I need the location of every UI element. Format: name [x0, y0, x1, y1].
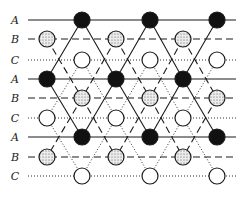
atom-filled	[142, 129, 158, 145]
atom-filled	[142, 12, 158, 28]
layer-label: C	[11, 170, 20, 183]
atom-open	[209, 52, 225, 68]
layer-labels: ABCABCABC	[10, 14, 20, 183]
atom-filled	[39, 71, 55, 87]
atom-dotted	[175, 149, 191, 165]
atom-open	[108, 110, 124, 126]
atom-dotted	[39, 31, 55, 47]
atom-open	[39, 110, 55, 126]
atom-open	[74, 52, 90, 68]
atom-dotted	[209, 90, 225, 106]
layer-label: A	[10, 131, 19, 144]
atom-filled	[209, 12, 225, 28]
stacking-diagram: ABCABCABC	[0, 0, 249, 198]
atom-open	[209, 168, 225, 184]
atom-open	[142, 168, 158, 184]
layer-lines	[28, 20, 236, 176]
atom-filled	[209, 129, 225, 145]
layer-label: A	[10, 14, 19, 27]
lattice-diagonal	[116, 20, 150, 79]
atom-dotted	[39, 149, 55, 165]
lattice-diagonal	[150, 20, 183, 79]
atom-dotted	[74, 90, 90, 106]
atom-filled	[175, 71, 191, 87]
layer-label: C	[11, 112, 20, 125]
lattice-diagonal	[82, 20, 116, 79]
atom-dotted	[108, 149, 124, 165]
layer-label: B	[10, 92, 19, 105]
atom-open	[142, 52, 158, 68]
atom-filled	[108, 71, 124, 87]
atom-filled	[74, 129, 90, 145]
lattice-diagonal	[47, 20, 82, 79]
lattice-diagonal	[183, 20, 217, 79]
atom-filled	[74, 12, 90, 28]
layer-label: B	[10, 33, 19, 46]
atom-open	[74, 168, 90, 184]
atom-open	[175, 110, 191, 126]
layer-label: B	[10, 151, 19, 164]
atom-dotted	[108, 31, 124, 47]
atom-dotted	[175, 31, 191, 47]
atom-dotted	[142, 90, 158, 106]
layer-label: A	[10, 73, 19, 86]
layer-label: C	[11, 54, 20, 67]
